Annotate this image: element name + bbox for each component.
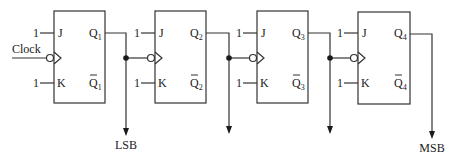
ff2-k-label: K: [158, 76, 167, 90]
ff2-j-label: J: [159, 26, 164, 40]
ff4-j-label: J: [362, 26, 367, 40]
q2-arrow-icon: [226, 126, 232, 134]
lsb-label: LSB: [115, 138, 137, 152]
ff1-j-label: J: [58, 26, 63, 40]
ff3-k-const: 1: [236, 76, 242, 90]
ff4-j-const: 1: [337, 26, 343, 40]
ff2-q-label: Q2: [190, 26, 203, 42]
ripple-counter-diagram: Clock 1 1 J K Q1 Q1 1 1 J K Q2 Q2 1 1 J …: [0, 0, 452, 162]
ff3-q-label: Q3: [292, 26, 305, 42]
ff3-qbar-label: Q3: [292, 76, 305, 92]
ff1-k-const: 1: [33, 76, 39, 90]
ff1-qbar-label: Q1: [89, 76, 102, 92]
ff4-qbar-label: Q4: [394, 76, 407, 92]
ff4-k-const: 1: [337, 76, 343, 90]
q3-arrow-icon: [327, 126, 333, 134]
ff4-q-label: Q4: [394, 26, 407, 42]
ff2-qbar-label: Q2: [190, 76, 203, 92]
ff2-j-const: 1: [134, 26, 140, 40]
ff1-q-label: Q1: [89, 26, 102, 42]
msb-label: MSB: [419, 141, 444, 155]
ff3-j-label: J: [261, 26, 266, 40]
ff2-k-const: 1: [134, 76, 140, 90]
circuit-svg: Clock 1 1 J K Q1 Q1 1 1 J K Q2 Q2 1 1 J …: [0, 0, 452, 162]
clock-label: Clock: [12, 42, 41, 56]
ff3-j-const: 1: [236, 26, 242, 40]
ff1-k-label: K: [57, 76, 66, 90]
ff1-j-const: 1: [33, 26, 39, 40]
lsb-arrow-icon: [123, 128, 129, 136]
ff4-k-label: K: [361, 76, 370, 90]
ff3-k-label: K: [260, 76, 269, 90]
msb-arrow-icon: [429, 131, 435, 139]
